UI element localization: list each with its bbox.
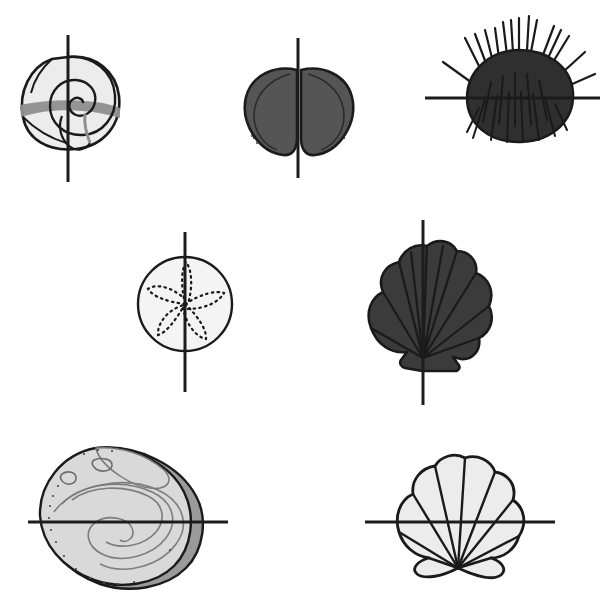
snail-shell-body xyxy=(20,57,120,150)
light-scallop-body xyxy=(397,455,524,577)
worksheet-canvas xyxy=(0,0,612,595)
figure-light-scallop-shell[interactable] xyxy=(355,440,565,595)
sea-urchin-body xyxy=(467,50,573,142)
figure-clam-shell[interactable] xyxy=(230,0,370,200)
figure-abalone-shell[interactable] xyxy=(10,430,250,595)
figure-snail-shell[interactable] xyxy=(0,0,160,200)
abalone-shell-body xyxy=(40,447,203,588)
figure-sea-urchin[interactable] xyxy=(415,0,612,200)
figure-dark-scallop-shell[interactable] xyxy=(345,210,505,410)
dark-scallop-body xyxy=(369,241,492,371)
figure-sand-dollar[interactable] xyxy=(120,210,260,410)
